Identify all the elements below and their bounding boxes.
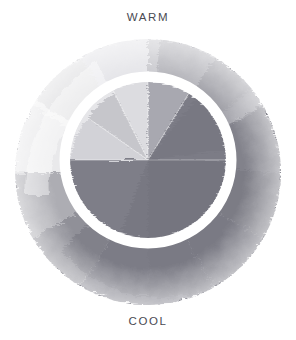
value-wheel-figure: WARM: [0, 0, 296, 340]
label-warm: WARM: [0, 12, 296, 24]
wheel-canvas: [0, 0, 296, 340]
inner-pie-wheel: [70, 82, 226, 239]
label-cool: COOL: [0, 316, 296, 328]
